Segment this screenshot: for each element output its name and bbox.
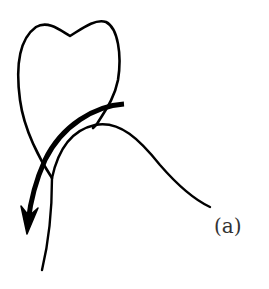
tooth-diagram xyxy=(0,0,269,289)
tooth-outline xyxy=(18,21,119,178)
root-line xyxy=(42,178,52,270)
figure-label: (a) xyxy=(214,214,242,238)
arrow-shaft xyxy=(28,104,124,222)
gum-line xyxy=(52,124,210,207)
